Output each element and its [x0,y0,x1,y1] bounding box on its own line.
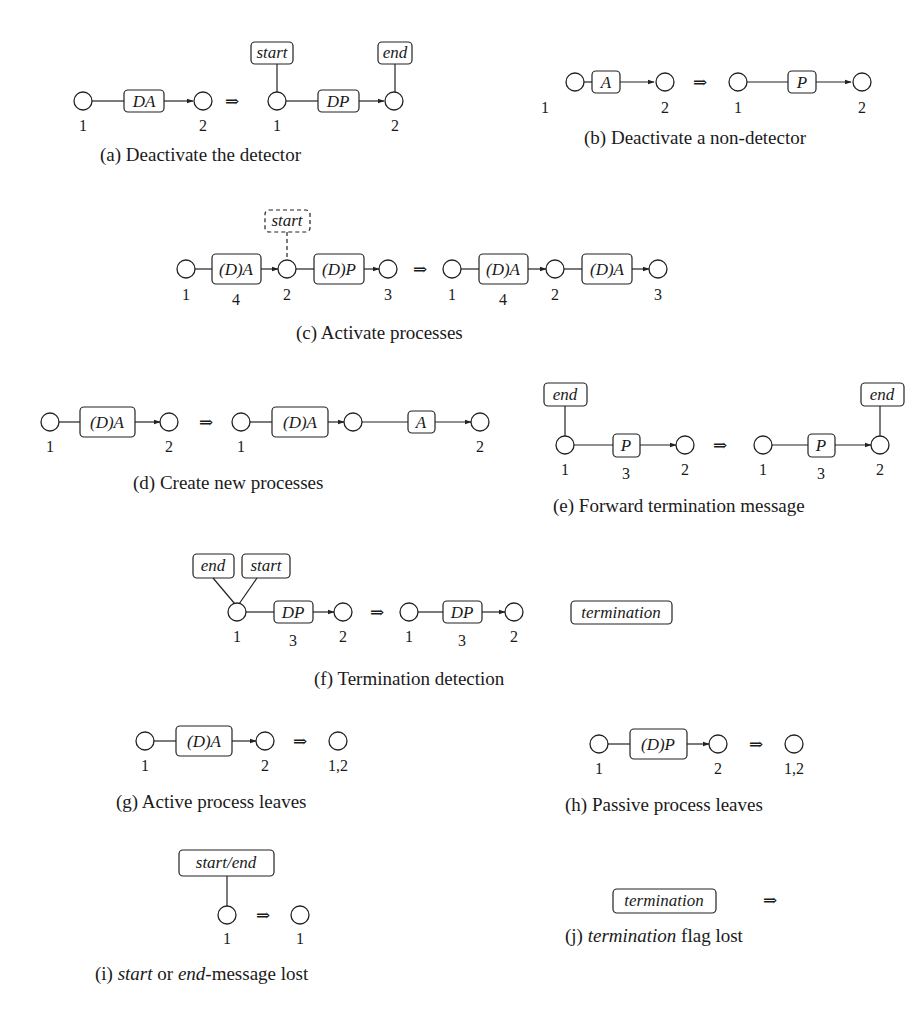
message-label: end [383,43,408,62]
message-label: end [870,385,895,404]
node-label: 1,2 [328,757,348,774]
node-label: 2 [199,117,207,134]
node-label: 1 [273,117,281,134]
panel-caption: (j) termination flag lost [565,925,744,947]
panel-caption: (h) Passive process leaves [565,794,763,816]
node-label: 2 [476,438,484,455]
node-label: 1 [233,628,241,645]
node-label: 1 [561,461,569,478]
node-label: 3 [384,286,392,303]
node-label: 2 [661,99,669,116]
transition-arrow: ⇒ [225,91,239,111]
panel-c: (D)A start (D)P 1 4 2 3 ⇒ (D)A (D)A 1 4 … [177,210,667,344]
transition-arrow: ⇒ [763,890,777,910]
panel-i: start/end 1 ⇒ 1 (i) start or end-message… [95,850,309,985]
edge-label: 4 [232,291,240,308]
panel-caption: (c) Activate processes [296,322,463,344]
node-label: 1 [223,930,231,947]
node-label: 3 [654,286,662,303]
panel-caption: (e) Forward termination message [553,495,805,517]
panel-j: termination ⇒ (j) termination flag lost [565,889,777,947]
node-2 [385,92,403,110]
panel-e: end P 1 3 2 ⇒ P end 1 3 2 (e) Forward te… [544,383,904,517]
node-label: 1 [595,760,603,777]
node-label: 1 [79,117,87,134]
process-label: DP [281,603,305,622]
panel-caption: (a) Deactivate the detector [100,144,302,166]
process-label: (D)P [641,735,675,754]
panel-caption: (g) Active process leaves [116,791,306,813]
process-label: P [796,73,807,92]
node-label: 2 [714,760,722,777]
message-label: start [271,211,303,230]
node-1 [74,92,92,110]
flag-label: termination [624,891,703,910]
node-label: 1 [759,461,767,478]
process-label: (D)P [322,260,356,279]
edge-label: 3 [622,465,630,482]
node-label: 1 [448,286,456,303]
transition-arrow: ⇒ [693,72,707,92]
process-label: (D)A [486,260,521,279]
transition-arrow: ⇒ [256,905,270,925]
process-label: (D)A [283,413,318,432]
process-label: DP [326,92,350,111]
transition-arrow: ⇒ [293,731,307,751]
panel-caption: (b) Deactivate a non-detector [584,127,807,149]
transition-arrow: ⇒ [413,259,427,279]
process-label: P [620,436,631,455]
node-label: 1 [734,99,742,116]
process-label: (D)A [219,260,254,279]
transition-arrow: ⇒ [370,602,384,622]
node-label: 2 [876,461,884,478]
node-1 [268,92,286,110]
node-label: 1 [541,99,549,116]
process-label: A [600,73,612,92]
node-label: 2 [339,628,347,645]
node-label: 1 [46,438,54,455]
panel-f: end start DP 1 3 2 ⇒ DP 1 3 2 terminatio… [193,554,672,690]
node-label: 2 [283,286,291,303]
node-label: 2 [391,117,399,134]
process-label: A [415,413,427,432]
panel-caption: (f) Termination detection [314,668,505,690]
node-label: 1 [182,286,190,303]
figure-canvas: DA 1 2 ⇒ start DP end 1 2 (a) Deactivate… [0,0,914,1019]
message-label: start/end [196,853,257,872]
node-label: 1 [237,438,245,455]
node-label: 1,2 [784,760,804,777]
node-label: 2 [510,628,518,645]
node-label: 2 [681,461,689,478]
transition-arrow: ⇒ [749,734,763,754]
message-label: end [201,556,226,575]
node-2 [194,92,212,110]
node-label: 1 [296,930,304,947]
edge-label: 3 [458,632,466,649]
node-label: 1 [405,628,413,645]
panel-b: A 1 2 ⇒ P 1 2 (b) Deactivate a non-detec… [541,71,871,149]
edge-label: 3 [289,632,297,649]
node-label: 2 [261,757,269,774]
transition-arrow: ⇒ [713,435,727,455]
message-label: end [553,385,578,404]
flag-label: termination [581,603,660,622]
panel-caption: (i) start or end-message lost [95,963,309,985]
process-label: (D)A [90,413,125,432]
process-label: DA [132,92,156,111]
edge-label: 4 [499,291,507,308]
edge-label: 3 [817,465,825,482]
panel-d: (D)A 1 2 ⇒ (D)A A 1 2 (d) Create new pro… [41,407,489,494]
node-label: 2 [858,99,866,116]
message-label: start [256,43,288,62]
node-label: 1 [141,757,149,774]
transition-arrow: ⇒ [199,412,213,432]
panel-h: (D)P 1 2 ⇒ 1,2 (h) Passive process leave… [565,729,804,816]
message-label: start [250,556,282,575]
panel-g: (D)A 1 2 ⇒ 1,2 (g) Active process leaves [116,726,348,813]
node-label: 2 [551,286,559,303]
panel-caption: (d) Create new processes [133,472,323,494]
node-label: 2 [165,438,173,455]
process-label: (D)A [187,732,222,751]
process-label: DP [450,603,474,622]
process-label: P [815,436,826,455]
